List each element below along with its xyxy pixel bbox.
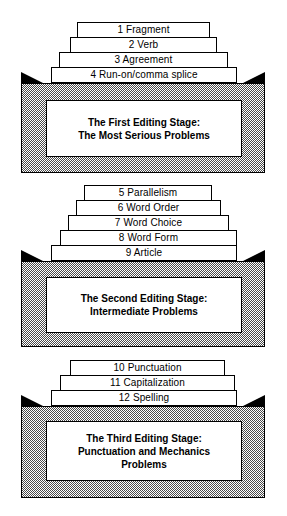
step-block-3-agreement: 3 Agreement [59, 52, 228, 68]
caption-line: Intermediate Problems [81, 305, 208, 318]
step-block-2-verb: 2 Verb [70, 37, 217, 53]
base-shoulder-right-first-stage [243, 72, 265, 83]
caption-panel-third-stage: The Third Editing Stage: Punctuation and… [46, 421, 242, 481]
base-slab-first-stage: The First Editing Stage: The Most Seriou… [21, 83, 265, 173]
base-slab-third-stage: The Third Editing Stage: Punctuation and… [21, 406, 265, 498]
base-shoulder-left-third-stage [21, 395, 43, 406]
step-block-7-word-choice: 7 Word Choice [68, 215, 229, 231]
pyramid-second-editing-stage: 5 Parallelism 6 Word Order 7 Word Choice… [0, 185, 287, 350]
caption-line: Punctuation and Mechanics [78, 445, 210, 458]
caption-panel-second-stage: The Second Editing Stage: Intermediate P… [46, 277, 242, 333]
step-block-1-fragment: 1 Fragment [77, 22, 210, 38]
step-block-8-word-form: 8 Word Form [60, 230, 237, 246]
caption-line: The Second Editing Stage: [81, 292, 208, 305]
base-slab-second-stage: The Second Editing Stage: Intermediate P… [21, 261, 265, 347]
step-block-5-parallelism: 5 Parallelism [84, 185, 212, 201]
step-stack-first-stage: 1 Fragment 2 Verb 3 Agreement 4 Run-on/c… [0, 0, 287, 76]
base-shoulder-left-second-stage [21, 250, 43, 261]
base-shoulder-left-first-stage [21, 72, 43, 83]
caption-line: Problems [78, 458, 210, 471]
base-shoulder-right-second-stage [243, 250, 265, 261]
caption-line: The Third Editing Stage: [78, 432, 210, 445]
caption-panel-first-stage: The First Editing Stage: The Most Seriou… [46, 100, 242, 157]
step-block-11-capitalization: 11 Capitalization [60, 375, 235, 391]
step-block-9-article: 9 Article [51, 245, 237, 261]
pyramid-third-editing-stage: 10 Punctuation 11 Capitalization 12 Spel… [0, 360, 287, 516]
step-block-6-word-order: 6 Word Order [76, 200, 221, 216]
pyramid-first-editing-stage: 1 Fragment 2 Verb 3 Agreement 4 Run-on/c… [0, 0, 287, 176]
caption-line: The First Editing Stage: [78, 116, 210, 129]
step-block-4-run-on-comma-splice: 4 Run-on/comma splice [51, 67, 237, 83]
base-shoulder-right-third-stage [243, 395, 265, 406]
step-block-10-punctuation: 10 Punctuation [70, 360, 225, 376]
caption-line: The Most Serious Problems [78, 129, 210, 142]
step-block-12-spelling: 12 Spelling [51, 390, 237, 406]
editing-stages-diagram: 1 Fragment 2 Verb 3 Agreement 4 Run-on/c… [0, 0, 287, 516]
